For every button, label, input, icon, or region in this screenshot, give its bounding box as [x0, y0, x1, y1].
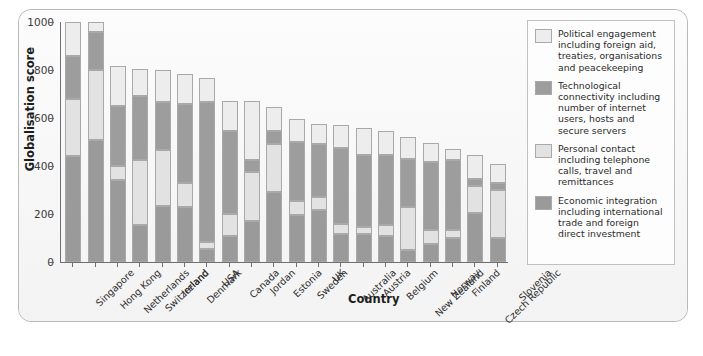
- plot-area: [60, 22, 507, 263]
- bar-segment-personal: [110, 166, 126, 180]
- y-tick-label-400: 400: [8, 161, 54, 171]
- y-tick-mark-0: [49, 262, 54, 263]
- bar-segment-personal: [490, 190, 506, 238]
- bar-segment-personal: [177, 183, 193, 207]
- y-tick-label-600: 600: [8, 113, 54, 123]
- bar-jordan[interactable]: [244, 101, 260, 262]
- bar-canada[interactable]: [222, 101, 238, 262]
- bar-slovenia[interactable]: [490, 164, 506, 262]
- bar-segment-political: [356, 128, 372, 156]
- bar-belgium[interactable]: [378, 131, 394, 262]
- bar-segment-techno: [88, 32, 104, 70]
- bar-segment-economic: [132, 225, 148, 262]
- bar-segment-economic: [88, 140, 104, 262]
- bar-segment-economic: [289, 215, 305, 262]
- bar-czech-republic[interactable]: [467, 155, 483, 262]
- bar-group: [61, 22, 508, 262]
- bar-segment-political: [467, 155, 483, 179]
- legend-item-economic[interactable]: Economic integration including internati…: [535, 195, 668, 240]
- bar-segment-economic: [490, 238, 506, 262]
- bar-segment-techno: [65, 56, 81, 99]
- bar-segment-political: [333, 125, 349, 148]
- bar-segment-techno: [467, 179, 483, 186]
- bar-segment-economic: [333, 234, 349, 262]
- bar-switzerland[interactable]: [132, 69, 148, 262]
- bar-austria[interactable]: [356, 128, 372, 262]
- bar-segment-personal: [266, 144, 282, 192]
- bar-segment-techno: [266, 131, 282, 144]
- bar-segment-economic: [155, 206, 171, 262]
- bar-norway[interactable]: [423, 143, 439, 262]
- legend-swatch-icon-techno: [535, 81, 552, 95]
- bar-segment-techno: [445, 160, 461, 230]
- bar-denmark[interactable]: [177, 74, 193, 262]
- legend-label-political: Political engagement including foreign a…: [558, 28, 668, 73]
- bar-segment-political: [266, 107, 282, 131]
- bar-segment-political: [88, 22, 104, 32]
- legend-swatch-icon-personal: [535, 144, 552, 158]
- bar-segment-techno: [199, 102, 215, 241]
- bar-segment-techno: [132, 96, 148, 160]
- bar-sweden[interactable]: [289, 119, 305, 262]
- bar-segment-economic: [445, 238, 461, 262]
- bar-segment-political: [199, 78, 215, 102]
- bar-segment-personal: [289, 201, 305, 215]
- bar-segment-political: [445, 149, 461, 160]
- y-axis-tick-labels: 02004006008001000: [0, 22, 54, 263]
- bar-segment-political: [155, 70, 171, 102]
- bar-segment-political: [311, 124, 327, 144]
- bar-segment-techno: [155, 102, 171, 150]
- bar-segment-economic: [222, 236, 238, 262]
- bar-segment-personal: [467, 186, 483, 212]
- y-tick-mark-200: [49, 214, 54, 215]
- bar-segment-economic: [467, 213, 483, 262]
- y-tick-label-1000: 1000: [8, 17, 54, 27]
- bar-segment-political: [65, 22, 81, 56]
- bar-australia[interactable]: [333, 125, 349, 262]
- legend-label-techno: Technological connectivity including num…: [558, 80, 668, 136]
- bar-segment-personal: [222, 214, 238, 236]
- legend-item-political[interactable]: Political engagement including foreign a…: [535, 28, 668, 73]
- bar-segment-personal: [155, 150, 171, 205]
- y-tick-label-0: 0: [8, 257, 54, 267]
- bar-segment-personal: [199, 242, 215, 249]
- bar-segment-economic: [400, 250, 416, 262]
- bar-ireland[interactable]: [155, 70, 171, 262]
- bar-segment-personal: [244, 172, 260, 221]
- bar-segment-political: [132, 69, 148, 97]
- bar-segment-techno: [378, 155, 394, 225]
- y-tick-mark-600: [49, 118, 54, 119]
- bar-hong-kong[interactable]: [88, 22, 104, 262]
- bar-segment-techno: [222, 131, 238, 214]
- bar-usa[interactable]: [199, 78, 215, 262]
- bar-segment-personal: [378, 225, 394, 236]
- bar-finland[interactable]: [445, 149, 461, 262]
- bar-segment-economic: [177, 207, 193, 262]
- bar-segment-techno: [400, 159, 416, 207]
- bar-segment-political: [400, 137, 416, 159]
- bar-singapore[interactable]: [65, 22, 81, 262]
- bar-segment-political: [110, 66, 126, 106]
- bar-segment-techno: [289, 142, 305, 201]
- bar-uk[interactable]: [311, 124, 327, 262]
- bar-segment-personal: [333, 224, 349, 235]
- legend-item-techno[interactable]: Technological connectivity including num…: [535, 80, 668, 136]
- legend-swatch-icon-political: [535, 29, 552, 43]
- y-tick-label-200: 200: [8, 209, 54, 219]
- bar-estonia[interactable]: [266, 107, 282, 262]
- bar-segment-techno: [423, 162, 439, 229]
- bar-new-zealand[interactable]: [400, 137, 416, 262]
- legend-item-personal[interactable]: Personal contact including telephone cal…: [535, 143, 668, 188]
- bar-segment-personal: [400, 207, 416, 250]
- bar-segment-economic: [356, 234, 372, 262]
- bar-segment-techno: [311, 144, 327, 197]
- bar-segment-political: [177, 74, 193, 104]
- bar-segment-techno: [110, 106, 126, 166]
- bar-segment-political: [490, 164, 506, 183]
- bar-segment-personal: [311, 197, 327, 210]
- bar-netherlands[interactable]: [110, 66, 126, 262]
- legend-label-personal: Personal contact including telephone cal…: [558, 143, 668, 188]
- bar-segment-economic: [266, 192, 282, 262]
- bar-segment-economic: [378, 236, 394, 262]
- bar-segment-political: [222, 101, 238, 131]
